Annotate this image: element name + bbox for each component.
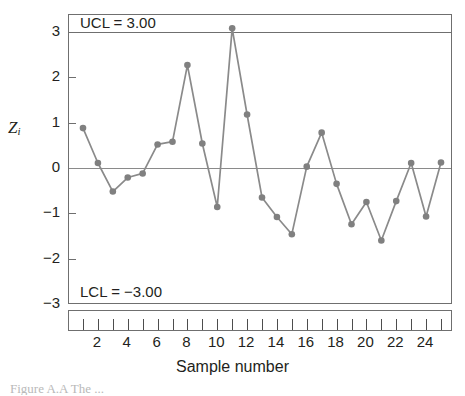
data-point	[124, 174, 131, 181]
x-tick-label: 16	[294, 334, 318, 350]
x-tickmark	[322, 319, 323, 330]
x-tick-label: 18	[324, 334, 348, 350]
y-tick-label: −3	[34, 295, 60, 310]
x-tick-label: 14	[264, 334, 288, 350]
x-tickmark	[98, 319, 99, 330]
x-tick-label: 8	[174, 334, 198, 350]
x-tickmark	[113, 319, 114, 330]
x-axis-title: Sample number	[0, 358, 465, 376]
x-tickmark	[247, 319, 248, 330]
data-point	[110, 188, 117, 195]
data-point	[259, 194, 266, 201]
y-axis-title-subscript: i	[17, 125, 20, 137]
x-tickmark	[337, 319, 338, 330]
data-point	[303, 163, 310, 170]
data-point	[244, 111, 251, 118]
x-tickmark	[381, 319, 382, 330]
data-point	[214, 204, 221, 211]
x-tickmark	[411, 319, 412, 330]
data-point	[423, 213, 430, 220]
data-point	[169, 138, 176, 145]
x-tickmark	[352, 319, 353, 330]
plot-area: UCL = 3.00 LCL = −3.00	[68, 14, 452, 304]
y-tick-label: 1	[34, 114, 60, 129]
data-point	[184, 62, 191, 69]
data-point	[289, 231, 296, 238]
data-point	[393, 198, 400, 205]
x-axis-tick-strip	[68, 310, 452, 331]
figure-caption: Figure A.A The ...	[10, 381, 460, 395]
series-line	[83, 28, 441, 240]
x-tick-label: 20	[353, 334, 377, 350]
data-point	[333, 181, 340, 188]
y-axis-tick-labels: 3210−1−2−3	[32, 0, 60, 396]
y-axis-title: Zi	[8, 118, 21, 138]
data-point	[154, 141, 161, 148]
x-tickmark	[173, 319, 174, 330]
y-tick-label: 2	[34, 68, 60, 83]
data-point	[363, 199, 370, 206]
x-tick-label: 24	[413, 334, 437, 350]
y-tick-label: 0	[34, 159, 60, 174]
x-tick-label: 2	[85, 334, 109, 350]
x-tick-label: 12	[234, 334, 258, 350]
y-tick-label: −2	[34, 250, 60, 265]
x-tickmark	[158, 319, 159, 330]
x-tick-label: 6	[145, 334, 169, 350]
y-tick-label: −1	[34, 204, 60, 219]
data-point	[139, 170, 146, 177]
data-point	[95, 160, 102, 167]
data-point	[80, 125, 87, 132]
x-tickmark	[187, 319, 188, 330]
data-point	[438, 159, 445, 166]
x-tickmark	[143, 319, 144, 330]
x-tickmark	[83, 319, 84, 330]
data-point	[408, 160, 415, 167]
x-tickmark	[277, 319, 278, 330]
data-point	[348, 221, 355, 228]
x-tickmark	[366, 319, 367, 330]
x-tickmark	[128, 319, 129, 330]
data-series	[69, 15, 452, 304]
data-point	[318, 129, 325, 136]
x-tickmark	[202, 319, 203, 330]
x-tickmark	[262, 319, 263, 330]
x-tickmark	[292, 319, 293, 330]
data-point	[274, 214, 281, 221]
x-tickmark	[396, 319, 397, 330]
data-point	[378, 237, 385, 244]
data-point	[199, 140, 206, 147]
y-tick-label: 3	[34, 23, 60, 38]
x-tick-label: 22	[383, 334, 407, 350]
x-tick-label: 4	[115, 334, 139, 350]
x-tickmark	[307, 319, 308, 330]
figure-root: Zi 3210−1−2−3 UCL = 3.00 LCL = −3.00 246…	[0, 0, 465, 396]
x-tick-label: 10	[204, 334, 228, 350]
x-tickmark	[217, 319, 218, 330]
x-tickmark	[232, 319, 233, 330]
x-tickmark	[441, 319, 442, 330]
x-tickmark	[426, 319, 427, 330]
data-point	[229, 25, 236, 32]
